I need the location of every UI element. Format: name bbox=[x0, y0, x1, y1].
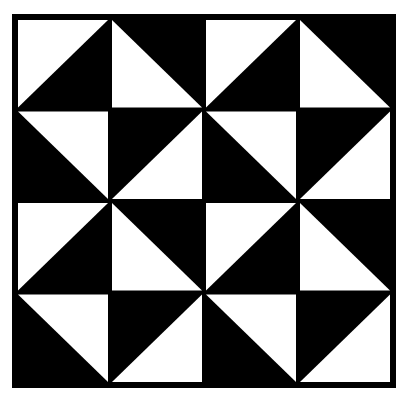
quilt-pattern bbox=[0, 0, 403, 395]
